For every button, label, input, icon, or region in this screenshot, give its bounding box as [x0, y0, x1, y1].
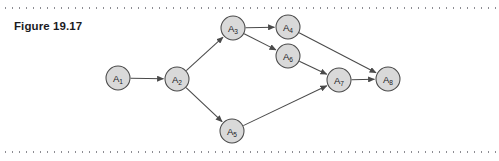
graph-edge-a3-to-a4 — [245, 27, 274, 28]
graph-node-a3: A3 — [221, 16, 245, 40]
graph-edge-a1-to-a2 — [130, 78, 163, 79]
figure-page: Figure 19.17 A1A2A3A4A5A6A7A8 — [0, 0, 499, 161]
node-label-subscript: 6 — [289, 55, 293, 62]
graph-node-a1: A1 — [106, 66, 130, 90]
graph-edge-a5-to-a7 — [243, 86, 327, 126]
node-label-subscript: 5 — [233, 130, 237, 137]
node-label-subscript: 7 — [340, 79, 344, 86]
node-label-subscript: 8 — [389, 78, 393, 85]
graph-node-a8: A8 — [376, 67, 400, 91]
graph-edge-a6-to-a7 — [299, 61, 326, 74]
graph-node-a4: A4 — [276, 15, 300, 39]
graph-edge-a3-to-a6 — [244, 34, 276, 50]
directed-graph-diagram: A1A2A3A4A5A6A7A8 — [0, 0, 499, 161]
graph-edge-a2-to-a5 — [186, 88, 222, 122]
graph-node-a6: A6 — [276, 44, 300, 68]
graph-edge-a2-to-a3 — [186, 37, 223, 70]
bottom-dotted-rule — [0, 151, 499, 153]
node-label-subscript: 2 — [178, 78, 182, 85]
node-label-subscript: 1 — [119, 77, 123, 84]
graph-node-a5: A5 — [220, 119, 244, 143]
node-label-subscript: 4 — [289, 26, 293, 33]
graph-node-a7: A7 — [327, 68, 351, 92]
graph-node-a2: A2 — [165, 67, 189, 91]
node-label-subscript: 3 — [234, 27, 238, 34]
